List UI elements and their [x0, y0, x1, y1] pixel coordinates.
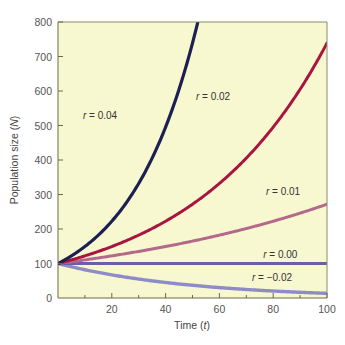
y-tick-label: 600	[34, 85, 52, 97]
y-tick-label: 300	[34, 189, 52, 201]
x-axis-title: Time (t)	[174, 319, 210, 331]
series-label-0: r = 0.04	[83, 110, 118, 121]
y-tick-label: 500	[34, 120, 52, 132]
y-tick-label: 400	[34, 154, 52, 166]
x-tick-label: 100	[318, 303, 336, 315]
y-tick-label: 800	[34, 16, 52, 28]
population-growth-chart: 010020030040050060070080020406080100 r =…	[0, 0, 345, 345]
y-tick-label: 700	[34, 51, 52, 63]
series-label-1: r = 0.02	[196, 91, 231, 102]
series-label-4: r = −0.02	[252, 272, 292, 283]
series-label-2: r = 0.01	[266, 186, 301, 197]
x-tick-label: 80	[267, 303, 279, 315]
y-tick-label: 200	[34, 223, 52, 235]
x-tick-label: 40	[160, 303, 172, 315]
y-tick-label: 100	[34, 258, 52, 270]
y-axis-title: Population size (N)	[8, 116, 20, 205]
series-label-3: r = 0.00	[263, 249, 298, 260]
x-tick-label: 20	[106, 303, 118, 315]
y-tick-label: 0	[46, 292, 52, 304]
x-tick-label: 60	[214, 303, 226, 315]
